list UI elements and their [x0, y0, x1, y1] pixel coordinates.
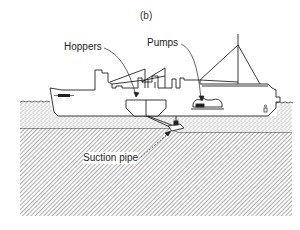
label-hoppers: Hoppers — [64, 41, 102, 53]
seabed — [20, 128, 292, 216]
label-suction-pipe: Suction pipe — [83, 152, 138, 164]
figure-caption: (b) — [140, 10, 152, 21]
hopper-compartment — [126, 100, 166, 116]
mast-rigging — [200, 34, 268, 86]
label-pumps: Pumps — [147, 37, 178, 49]
pumps-machinery — [191, 99, 224, 110]
dredger-diagram: (b) Hoppers Pumps Suction pipe — [0, 0, 300, 230]
diagram-canvas — [0, 0, 300, 230]
